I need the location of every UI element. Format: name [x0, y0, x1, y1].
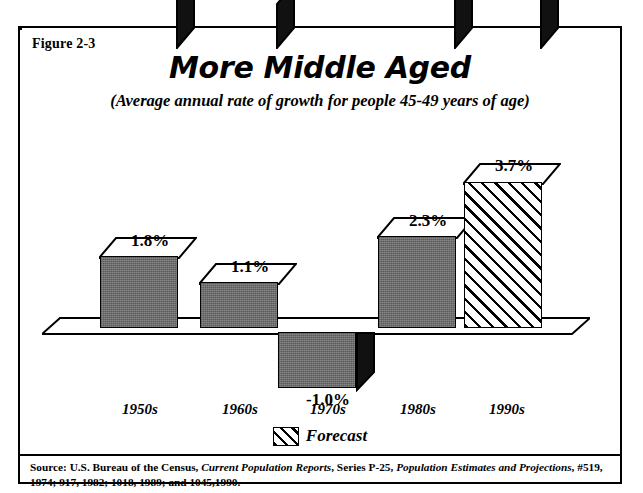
- source-divider: [20, 454, 620, 456]
- category-label-1990s: 1990s: [457, 401, 557, 418]
- bar-1950s-side: [177, 28, 179, 30]
- category-label-1960s: 1960s: [190, 401, 290, 418]
- source-italic-current-population-reports: Current Population Reports: [201, 461, 331, 473]
- source-prefix: Source: U.S. Bureau of the Census,: [30, 461, 201, 473]
- source-italic-population-estimates: Population Estimates and Projections: [396, 461, 571, 473]
- bar-1950s-front: [100, 256, 178, 328]
- source-middle: , Series P-25,: [331, 461, 396, 473]
- bar-1990s-front: [464, 182, 542, 328]
- chart-legend: Forecast: [20, 426, 620, 446]
- figure-frame: Figure 2-3 More Middle Aged (Average ann…: [18, 26, 622, 484]
- bar-1980s-side: [455, 28, 457, 30]
- bar-1990s-value: 3.7%: [464, 156, 564, 176]
- hatched-forecast-swatch-icon: [273, 427, 299, 446]
- plot-area: 1.8% 1.1% -1.: [20, 28, 620, 482]
- bar-1980s-value: 2.3%: [378, 211, 478, 231]
- category-label-1950s: 1950s: [90, 401, 190, 418]
- source-note: Source: U.S. Bureau of the Census, Curre…: [30, 460, 610, 490]
- bar-1970s-side: [20, 28, 22, 30]
- bar-1960s-value: 1.1%: [200, 257, 300, 277]
- bar-1970s-front: [278, 332, 356, 388]
- bar-1960s-front: [200, 282, 278, 328]
- bar-1960s-side: [277, 28, 279, 30]
- bar-1950s-value: 1.8%: [100, 231, 200, 251]
- legend-label-forecast: Forecast: [306, 426, 367, 446]
- category-label-1980s: 1980s: [368, 401, 468, 418]
- bar-1990s-side: [541, 28, 543, 30]
- bar-1980s-front: [378, 236, 456, 328]
- category-label-1970s: 1970s: [278, 401, 378, 418]
